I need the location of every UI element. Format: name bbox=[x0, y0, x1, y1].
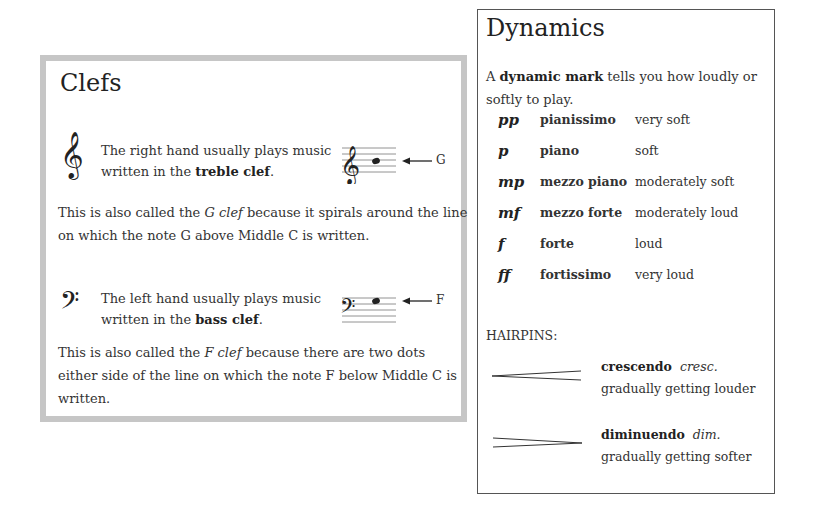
g-note bbox=[371, 157, 381, 165]
dynamic-meaning: soft bbox=[635, 143, 659, 158]
treble-staff-diagram: 𝄞 bbox=[336, 134, 411, 184]
bass-clef-description: The left hand usually plays music writte… bbox=[101, 288, 341, 330]
bass-note-label: F bbox=[436, 293, 444, 307]
diminuendo-meaning: gradually getting softer bbox=[601, 449, 751, 464]
dynamic-meaning: loud bbox=[635, 236, 663, 251]
dynamic-row-mf: mf mezzo forte moderately loud bbox=[478, 204, 774, 228]
bass-clef-icon: 𝄢 bbox=[60, 284, 79, 324]
dynamic-row-p: p piano soft bbox=[478, 142, 774, 166]
dynamic-name: fortissimo bbox=[540, 267, 611, 282]
dynamics-title: Dynamics bbox=[486, 14, 605, 42]
crescendo-abbr: cresc. bbox=[680, 359, 718, 374]
diminuendo-term: diminuendo bbox=[601, 427, 685, 442]
dynamic-name: mezzo forte bbox=[540, 205, 622, 220]
ff-symbol: ff bbox=[498, 266, 510, 284]
clefs-panel: Clefs 𝄞 The right hand usually plays mus… bbox=[40, 55, 467, 422]
diminuendo-abbr: dim. bbox=[693, 427, 721, 442]
arrow-icon bbox=[402, 155, 434, 167]
dynamic-name: forte bbox=[540, 236, 574, 251]
treble-clef-icon: 𝄞 bbox=[60, 129, 84, 179]
dynamic-meaning: very loud bbox=[635, 267, 694, 282]
bass-staff-diagram: 𝄢 bbox=[336, 286, 411, 331]
svg-text:𝄢: 𝄢 bbox=[340, 295, 355, 323]
dynamic-name: piano bbox=[540, 143, 579, 158]
mp-symbol: mp bbox=[498, 173, 524, 191]
bass-clef-paragraph: This is also called the F clef because t… bbox=[58, 341, 468, 410]
dynamic-meaning: moderately loud bbox=[635, 205, 738, 220]
dynamic-meaning: moderately soft bbox=[635, 174, 734, 189]
treble-note-label: G bbox=[436, 153, 446, 167]
pp-symbol: pp bbox=[498, 111, 519, 129]
dynamic-row-mp: mp mezzo piano moderately soft bbox=[478, 173, 774, 197]
dynamic-row-ff: ff fortissimo very loud bbox=[478, 266, 774, 290]
bass-clef-term: bass clef bbox=[195, 312, 258, 327]
mf-symbol: mf bbox=[498, 204, 520, 222]
f-symbol: f bbox=[498, 235, 504, 253]
crescendo-hairpin-icon bbox=[490, 368, 585, 384]
dynamics-panel: Dynamics A dynamic mark tells you how lo… bbox=[477, 9, 775, 494]
crescendo-text: crescendo cresc. gradually getting loude… bbox=[601, 356, 755, 400]
treble-clef-term: treble clef bbox=[195, 164, 270, 179]
dynamic-name: pianissimo bbox=[540, 112, 616, 127]
diminuendo-hairpin-icon bbox=[490, 435, 585, 451]
treble-clef-description: The right hand usually plays music writt… bbox=[101, 140, 341, 182]
diminuendo-text: diminuendo dim. gradually getting softer bbox=[601, 424, 751, 468]
hairpins-heading: HAIRPINS: bbox=[486, 328, 557, 343]
dynamics-intro: A dynamic mark tells you how loudly or s… bbox=[486, 65, 766, 111]
arrow-icon bbox=[402, 295, 434, 307]
dynamic-row-pp: pp pianissimo very soft bbox=[478, 111, 774, 135]
dynamic-row-f: f forte loud bbox=[478, 235, 774, 259]
dynamic-mark-term: dynamic mark bbox=[500, 69, 604, 84]
dynamic-meaning: very soft bbox=[635, 112, 690, 127]
crescendo-term: crescendo bbox=[601, 359, 672, 374]
clefs-title: Clefs bbox=[60, 69, 121, 97]
svg-text:𝄞: 𝄞 bbox=[340, 144, 360, 184]
crescendo-meaning: gradually getting louder bbox=[601, 381, 755, 396]
dynamic-name: mezzo piano bbox=[540, 174, 627, 189]
p-symbol: p bbox=[498, 142, 509, 160]
treble-clef-paragraph: This is also called the G clef because i… bbox=[58, 201, 468, 247]
